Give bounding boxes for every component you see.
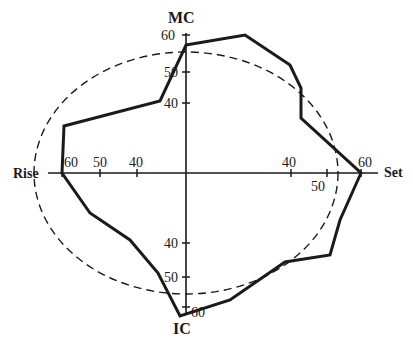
ic-label: IC	[173, 320, 191, 337]
rise-label: Rise	[13, 166, 39, 181]
tick-label-top-50: 50	[164, 65, 178, 80]
polar-diagram: MC IC Rise Set 60 50 40 40 50 60 60 50 4…	[0, 0, 413, 342]
tick-label-right-50: 50	[311, 179, 325, 194]
tick-label-left-50: 50	[93, 155, 107, 170]
tick-label-right-40: 40	[282, 155, 296, 170]
mc-label: MC	[168, 9, 195, 26]
tick-label-left-60: 60	[64, 155, 78, 170]
tick-label-left-40: 40	[129, 155, 143, 170]
tick-label-right-60: 60	[358, 155, 372, 170]
tick-label-bottom-60: 60	[191, 305, 205, 320]
profile-polygon	[62, 35, 361, 316]
tick-label-top-60: 60	[161, 28, 175, 43]
tick-label-bottom-50: 50	[164, 270, 178, 285]
set-label: Set	[384, 165, 403, 180]
tick-label-top-40: 40	[164, 96, 178, 111]
tick-label-bottom-40: 40	[164, 236, 178, 251]
